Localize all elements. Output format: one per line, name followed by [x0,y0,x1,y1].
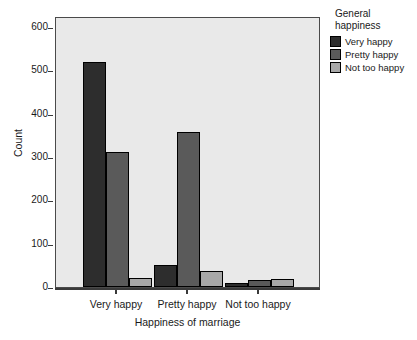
x-tick-label: Not too happy [225,298,290,310]
x-axis-title: Happiness of marriage [55,316,320,328]
legend-item-label: Very happy [345,36,393,47]
y-tick-mark [48,28,53,29]
legend-title-line-1: General [335,8,416,20]
bars-layer [56,18,319,287]
bar [129,278,152,287]
x-tick-mark [257,288,259,294]
y-tick-label: 600 [16,22,48,32]
bar [106,152,129,287]
y-tick-mark [48,245,53,246]
x-tick-mark [115,288,117,294]
bar [200,271,223,287]
y-tick-mark [48,71,53,72]
plot-panel [55,17,320,288]
legend-item-label: Not too happy [345,62,404,73]
legend-item: Not too happy [330,62,416,73]
bar-chart: Count 0100200300400500600 Very happyPret… [0,0,417,340]
y-axis-ticks: 0100200300400500600 [12,0,48,340]
y-tick-label: 300 [16,152,48,162]
legend: General happiness Very happyPretty happy… [330,8,416,75]
y-tick-mark [48,158,53,159]
legend-title-line-2: happiness [335,20,416,32]
y-tick-mark [48,288,53,289]
x-tick-label: Very happy [90,298,143,310]
bar [225,283,248,287]
y-tick-mark [48,201,53,202]
y-tick-label: 400 [16,109,48,119]
y-tick-label: 100 [16,239,48,249]
legend-item: Pretty happy [330,49,416,60]
legend-swatch-icon [330,49,341,60]
bar [83,62,106,287]
legend-title: General happiness [330,8,416,32]
legend-entries: Very happyPretty happyNot too happy [330,36,416,73]
bar [177,132,200,287]
legend-swatch-icon [330,62,341,73]
legend-swatch-icon [330,36,341,47]
x-tick-mark [186,288,188,294]
legend-item-label: Pretty happy [345,49,398,60]
y-tick-mark [48,115,53,116]
y-tick-label: 500 [16,65,48,75]
bar [154,265,177,287]
bar [271,279,294,287]
y-tick-label: 200 [16,195,48,205]
y-tick-label: 0 [16,282,48,292]
x-tick-label: Pretty happy [158,298,217,310]
legend-item: Very happy [330,36,416,47]
bar [248,280,271,287]
